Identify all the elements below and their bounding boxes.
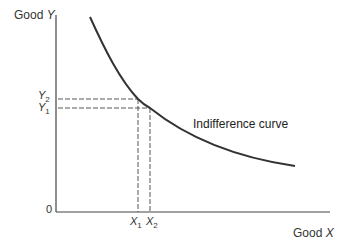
origin-label: 0 xyxy=(46,203,52,215)
x-axis-label: Good X xyxy=(293,226,334,240)
x1-tick-label: X1 xyxy=(130,215,142,227)
y-axis-label: Good Y xyxy=(14,8,55,22)
y2-tick-label: Y2 xyxy=(38,89,50,101)
x2-tick-label: X2 xyxy=(146,215,158,227)
curve-label: Indifference curve xyxy=(193,117,288,131)
indifference-curve xyxy=(90,17,295,166)
y1-tick-label: Y1 xyxy=(38,101,50,113)
